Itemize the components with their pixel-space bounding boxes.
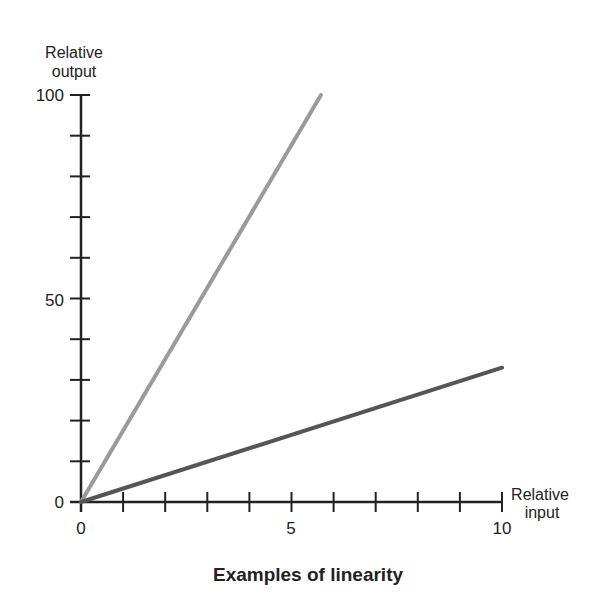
x-axis-label-line1: Relative (511, 486, 569, 503)
y-tick-label-100: 100 (36, 86, 64, 105)
x-tick-label-5: 5 (286, 519, 295, 538)
series-line-shallow (81, 368, 502, 502)
x-axis (70, 492, 502, 512)
x-tick-label-10: 10 (493, 519, 512, 538)
y-axis-label-line1: Relative (45, 44, 103, 61)
x-tick-label-0: 0 (76, 519, 85, 538)
linearity-chart: Relative output 100 50 0 0 5 10 Relative… (0, 0, 616, 612)
y-tick-label-50: 50 (45, 291, 64, 310)
y-axis-label-line2: output (52, 63, 97, 80)
y-axis (70, 95, 90, 512)
series-lines (81, 95, 502, 502)
x-axis-label-line2: input (525, 504, 560, 521)
series-line-steep (81, 95, 321, 502)
y-tick-label-0: 0 (55, 493, 64, 512)
chart-title: Examples of linearity (0, 564, 616, 586)
